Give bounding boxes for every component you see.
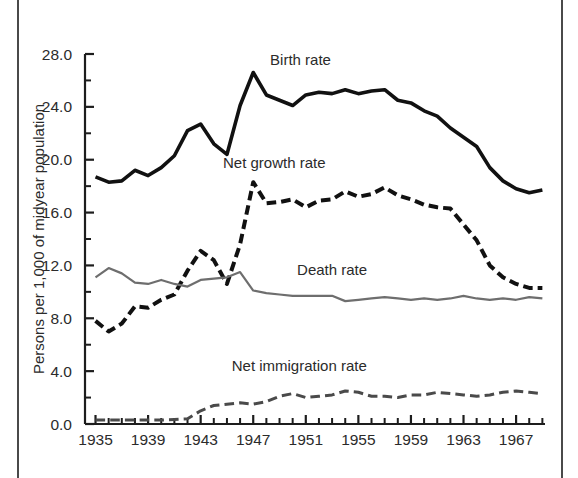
x-axis-tick-label: 1967: [499, 431, 533, 448]
y-axis-tick-label: 4.0: [50, 363, 72, 380]
series-line-birth-rate: [96, 73, 543, 193]
series-label-death-rate: Death rate: [297, 261, 367, 278]
y-axis-title-text: Persons per 1,000 of midyear population: [30, 104, 47, 374]
series-annotations: Birth rateNet growth rateDeath rateNet i…: [223, 51, 367, 375]
figure-container: 0.04.08.012.016.020.024.028.0 1935193919…: [0, 0, 578, 478]
x-axis-tick-label: 1951: [289, 431, 323, 448]
series-label-net-immigration-rate: Net immigration rate: [232, 357, 367, 374]
series-line-net-growth-rate: [96, 182, 543, 331]
series-label-birth-rate: Birth rate: [270, 51, 331, 68]
x-axis-tick-label: 1947: [236, 431, 270, 448]
x-axis-tick-label: 1939: [131, 431, 165, 448]
x-axis-tick-label: 1963: [446, 431, 480, 448]
x-axis-tick-label: 1955: [341, 431, 375, 448]
x-axis-tick-label: 1935: [78, 431, 112, 448]
x-axis-tick-labels: 193519391943194719511955195919631967: [78, 431, 533, 448]
y-axis-tick-label: 28.0: [42, 46, 73, 63]
y-axis-tick-label: 8.0: [50, 310, 72, 327]
y-axis-tick-label: 0.0: [50, 416, 72, 433]
series-label-net-growth-rate: Net growth rate: [223, 154, 326, 171]
x-axis-tick-label: 1959: [394, 431, 428, 448]
x-axis-tick-label: 1943: [183, 431, 217, 448]
y-axis-title: Persons per 1,000 of midyear population: [30, 104, 47, 374]
series-line-net-immigration-rate: [96, 391, 543, 420]
line-chart: 0.04.08.012.016.020.024.028.0 1935193919…: [0, 0, 578, 478]
